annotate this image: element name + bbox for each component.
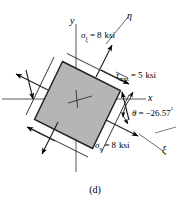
sigma-xi-unit: ksi (102, 30, 116, 40)
figure-caption: (d) (0, 184, 190, 195)
eta-axis-label: η (127, 11, 132, 21)
stress-element-figure: y x η ξ σξ=8ksi τmax=5ksi θ=−26.57° ση=8… (0, 0, 190, 203)
theta-label: θ=−26.57° (132, 108, 173, 118)
theta-unit: ° (171, 107, 173, 113)
theta-leader (122, 114, 128, 124)
sigma-eta-leader (155, 127, 176, 133)
y-axis-label: y (70, 16, 74, 26)
theta-equals: = (136, 108, 145, 118)
sigma-xi-label: σξ=8ksi (81, 31, 115, 42)
xi-axis-label: ξ (162, 145, 166, 155)
x-axis-label: x (148, 93, 152, 103)
sigma-eta-label: ση=8ksi (95, 141, 129, 152)
sigma-xi-equals: = (88, 30, 97, 40)
tau-max-unit: ksi (142, 70, 156, 80)
theta-value: −26.57 (146, 108, 171, 118)
tau-max-label: τmax=5ksi (116, 71, 156, 82)
xi-axis (139, 134, 163, 151)
sigma-eta-unit: ksi (116, 140, 130, 150)
tau-max-equals: = (129, 70, 138, 80)
sigma-xi-value: 8 (97, 30, 102, 40)
tau-max-subscript: max (119, 76, 129, 82)
